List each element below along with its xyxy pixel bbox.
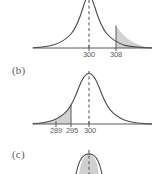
panel-b-tick-label-300: 300 (84, 126, 96, 135)
panel-a-normal-curve (33, 0, 152, 48)
panel-b-tick-label-289: 289 (50, 126, 62, 135)
panel-a-plot (0, 0, 152, 62)
panel-a-shaded-area (116, 26, 152, 49)
panel-b-normal-curve (33, 73, 152, 124)
panel-b-tick-label-295: 295 (66, 126, 78, 135)
panel-b: (b) 289 295 300 (0, 58, 152, 146)
panel-c: (c) (0, 146, 152, 174)
panel-a: 300 308 (0, 0, 152, 62)
panel-c-plot (0, 146, 152, 174)
normal-distribution-figure: 300 308 (b) 289 295 300 (c) (0, 0, 152, 174)
